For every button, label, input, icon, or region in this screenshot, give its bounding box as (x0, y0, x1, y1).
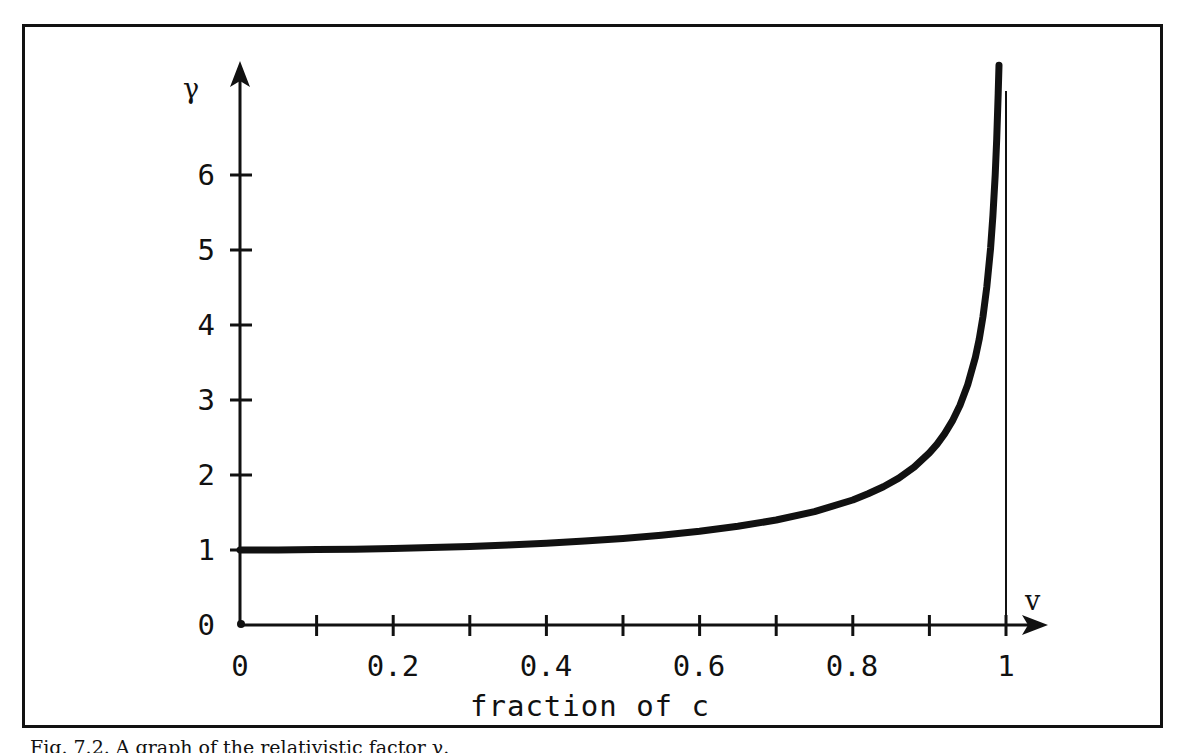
figure-container: γ v 0 1 2 3 4 5 6 0 0.2 0.4 0.6 0.8 1 fr… (0, 0, 1183, 753)
x-tick-label-0: 0 (195, 652, 285, 681)
x-tick-label-0-2: 0.2 (348, 652, 438, 681)
x-tick-label-1: 1 (961, 652, 1051, 681)
gamma-curve (240, 65, 999, 550)
y-tick-label-4: 4 (175, 311, 215, 340)
figure-caption: Fig. 7.2. A graph of the relativistic fa… (30, 736, 449, 753)
y-tick-label-5: 5 (175, 236, 215, 265)
y-tick-label-2: 2 (175, 461, 215, 490)
x-tick-label-0-8: 0.8 (807, 652, 897, 681)
x-axis-symbol: v (1025, 587, 1040, 614)
origin-marker (237, 620, 245, 628)
y-tick-label-0: 0 (175, 611, 215, 640)
x-axis-title: fraction of c (470, 692, 710, 721)
y-tick-label-1: 1 (175, 536, 215, 565)
x-tick-label-0-6: 0.6 (654, 652, 744, 681)
x-axis (240, 615, 1048, 635)
y-axis-symbol: γ (183, 75, 199, 102)
figure-border: γ v 0 1 2 3 4 5 6 0 0.2 0.4 0.6 0.8 1 fr… (22, 24, 1163, 728)
y-tick-label-3: 3 (175, 386, 215, 415)
y-tick-label-6: 6 (175, 161, 215, 190)
x-tick-label-0-4: 0.4 (501, 652, 591, 681)
y-axis (230, 61, 250, 625)
